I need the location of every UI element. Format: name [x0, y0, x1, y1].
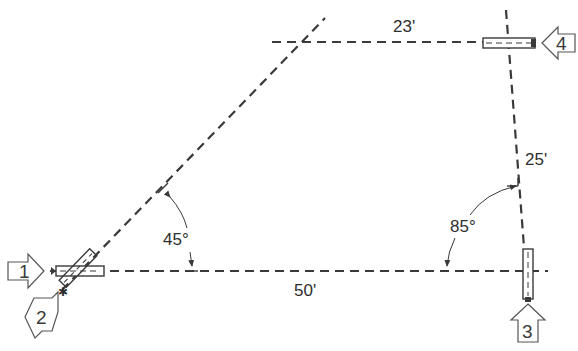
station-1-label: 1 [19, 261, 30, 282]
angle-arc-45 [158, 183, 198, 271]
dimension-23ft-label: 23' [393, 17, 415, 36]
dimension-25ft-label: 25' [525, 150, 547, 169]
instrument-station-4 [483, 38, 536, 48]
instrument-station-1 [51, 266, 104, 276]
traverse-diagram: ✱ 45° 85° 23' 25' 50' 1 2 [0, 0, 578, 351]
diagonal-line-45deg [62, 18, 325, 290]
station-2-point-mark: ✱ [58, 285, 68, 299]
angle-85-label: 85° [450, 217, 476, 236]
dimension-50ft-label: 50' [294, 281, 316, 300]
instrument-station-3 [523, 249, 533, 302]
station-3-label: 3 [522, 321, 533, 342]
station-4-label: 4 [556, 33, 567, 54]
station-2-label: 2 [36, 307, 47, 328]
angle-45-label: 45° [163, 230, 189, 249]
